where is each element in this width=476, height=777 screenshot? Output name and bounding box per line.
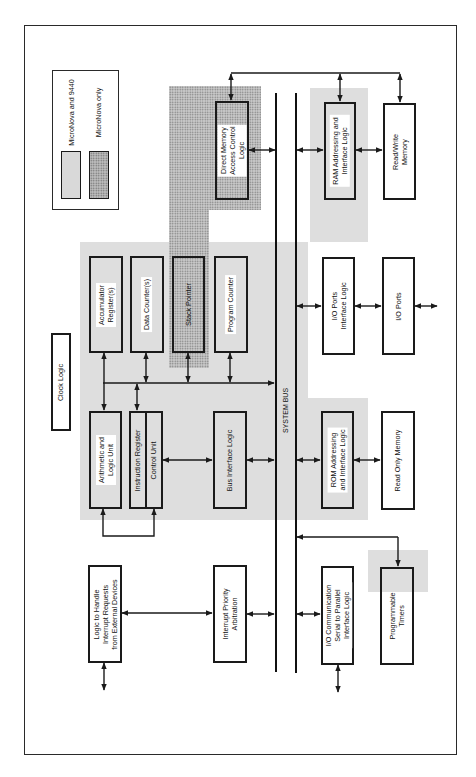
block-stack-pointer: Stack Pointer [172, 256, 205, 353]
block-ram-logic: RAM Addressing and Interface Logic [324, 102, 356, 200]
block-io-ports: I/O Ports [382, 257, 415, 355]
block-timers: Programmable Timers [380, 567, 414, 665]
block-control-unit: Control Unit [145, 411, 163, 509]
block-dma: Direct Memory Access Control Logic [215, 101, 249, 200]
block-rom: Read Only Memory [381, 411, 415, 510]
block-bus-interface: Bus Interface Logic [213, 411, 247, 509]
block-clock-logic: Clock Logic [51, 333, 71, 431]
block-interrupt-logic: Logic to Handle Interrupt Requests from … [88, 565, 122, 663]
block-io-ports-logic: I/O Ports Interface Logic [322, 257, 355, 355]
block-io-comm: I/O Communication Serial to Parallel Int… [321, 566, 354, 665]
block-rw-memory: Read/Write Memory [383, 103, 416, 200]
block-interrupt-priority: Interrupt Priority Arbitration [213, 565, 247, 663]
block-program-counter: Program Counter [214, 256, 248, 353]
block-alu: Arithmetic and Logic Unit [89, 411, 122, 509]
block-accumulator: Accumulator Register(s) [89, 256, 123, 353]
block-rom-logic: ROM Addressing and Interface Logic [321, 411, 354, 509]
block-data-counter: Data Counter(s) [130, 256, 164, 353]
